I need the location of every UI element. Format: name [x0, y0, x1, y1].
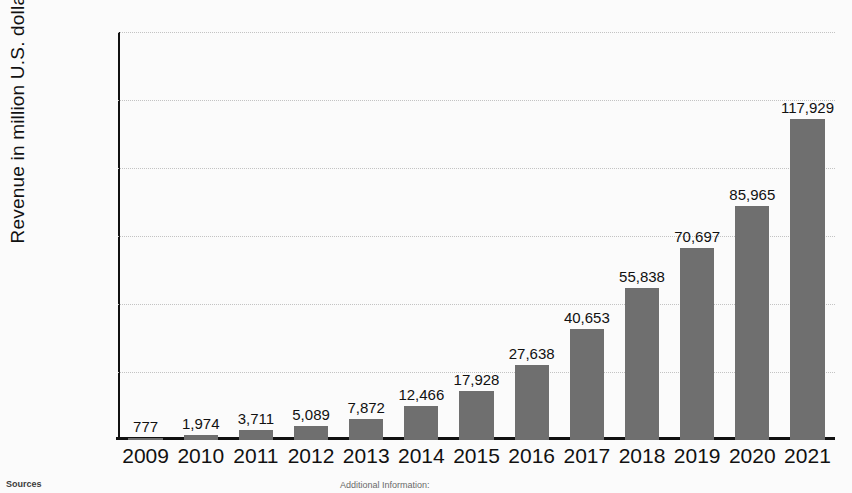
bar-slot: 7,872	[339, 32, 394, 440]
bar-slot: 17,928	[449, 32, 504, 440]
x-axis-ticks: 2009201020112012201320142015201620172018…	[118, 444, 835, 468]
sources-label: Sources	[6, 479, 42, 489]
bar-value-label: 117,929	[781, 99, 834, 116]
bar[interactable]: 5,089	[294, 426, 328, 440]
bar-slot: 55,838	[614, 32, 669, 440]
bar-value-label: 1,974	[182, 415, 220, 432]
bar[interactable]: 7,872	[349, 419, 383, 440]
bar[interactable]: 17,928	[459, 391, 493, 440]
bar[interactable]: 40,653	[570, 329, 604, 440]
x-axis-tick-label: 2016	[504, 444, 559, 468]
sources-detail: Additional Information:	[340, 480, 430, 490]
bar-value-label: 40,653	[564, 309, 610, 326]
bar-value-label: 777	[133, 418, 158, 435]
x-axis-tick-label: 2018	[614, 444, 669, 468]
x-axis-tick-label: 2010	[173, 444, 228, 468]
x-axis-tick-label: 2011	[228, 444, 283, 468]
bar-value-label: 3,711	[238, 410, 274, 427]
bar-slot: 1,974	[173, 32, 228, 440]
plot-area: 025,00050,00075,000100,000125,000150,000…	[118, 32, 835, 440]
x-axis-tick-label: 2017	[559, 444, 614, 468]
bar[interactable]: 85,965	[735, 206, 769, 440]
bar[interactable]: 117,929	[790, 119, 824, 440]
x-axis-tick-label: 2019	[670, 444, 725, 468]
x-axis-tick-label: 2009	[118, 444, 173, 468]
bar-value-label: 27,638	[509, 345, 555, 362]
bar[interactable]: 70,697	[680, 248, 714, 440]
x-axis-tick-label: 2014	[394, 444, 449, 468]
bar-slot: 12,466	[394, 32, 449, 440]
x-axis-tick-label: 2021	[780, 444, 835, 468]
chart-footer: Sources Additional Information:	[0, 479, 852, 493]
bar-slot: 777	[118, 32, 173, 440]
y-axis-title: Revenue in million U.S. dollars	[7, 0, 29, 281]
bar-value-label: 70,697	[674, 228, 720, 245]
bar[interactable]: 12,466	[404, 406, 438, 440]
bar-slot: 70,697	[670, 32, 725, 440]
bar-value-label: 55,838	[619, 268, 665, 285]
bar[interactable]: 27,638	[515, 365, 549, 440]
bar-slot: 117,929	[780, 32, 835, 440]
bar-value-label: 85,965	[729, 186, 775, 203]
bar[interactable]: 55,838	[625, 288, 659, 440]
bar-slot: 40,653	[559, 32, 614, 440]
bar-slot: 27,638	[504, 32, 559, 440]
bar-slot: 5,089	[283, 32, 338, 440]
bar[interactable]: 777	[128, 438, 162, 440]
x-axis-tick-label: 2015	[449, 444, 504, 468]
bar-slot: 3,711	[228, 32, 283, 440]
bar-value-label: 5,089	[292, 406, 330, 423]
bar[interactable]: 1,974	[184, 435, 218, 440]
bar-series: 7771,9743,7115,0897,87212,46617,92827,63…	[118, 32, 835, 440]
bar-slot: 85,965	[725, 32, 780, 440]
chart-page: Revenue in million U.S. dollars 025,0005…	[0, 0, 852, 493]
x-axis-tick-label: 2012	[283, 444, 338, 468]
bar-value-label: 7,872	[347, 399, 385, 416]
bar[interactable]: 3,711	[239, 430, 273, 440]
bar-value-label: 12,466	[398, 386, 444, 403]
x-axis-tick-label: 2020	[725, 444, 780, 468]
x-axis-tick-label: 2013	[339, 444, 394, 468]
bar-value-label: 17,928	[454, 371, 500, 388]
